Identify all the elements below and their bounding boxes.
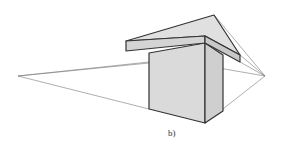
box-right-face (205, 43, 223, 123)
figure-label: b) (168, 128, 176, 138)
perspective-diagram (0, 0, 282, 147)
box-left-face (149, 43, 205, 123)
construction-lines (18, 15, 265, 123)
box (149, 43, 223, 123)
